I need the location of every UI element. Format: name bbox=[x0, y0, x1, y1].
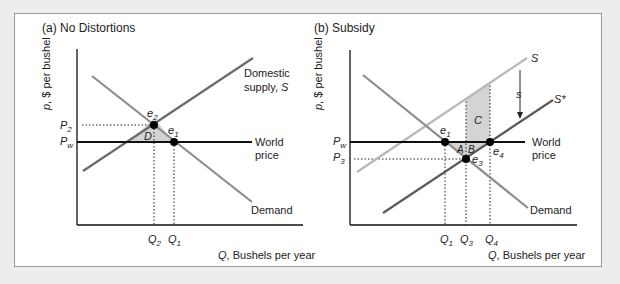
label-q3: Q3 bbox=[460, 233, 474, 248]
panel-a-title: (a) No Distortions bbox=[42, 21, 135, 35]
label-p3: P3 bbox=[333, 151, 345, 166]
label-q1-a: Q1 bbox=[168, 233, 181, 248]
label-supply-s-b: S bbox=[531, 52, 539, 64]
label-p2: P2 bbox=[60, 119, 72, 134]
label-pw-b: Pw bbox=[333, 135, 347, 150]
label-area-d: D bbox=[144, 130, 152, 142]
point-e2 bbox=[150, 121, 158, 129]
label-price-b: price bbox=[532, 149, 556, 161]
label-q2: Q2 bbox=[148, 233, 162, 248]
point-e1-b bbox=[441, 138, 449, 146]
label-e4: e4 bbox=[493, 145, 504, 160]
label-q4: Q4 bbox=[485, 233, 499, 248]
supply-curve-a bbox=[83, 58, 253, 171]
panel-b-title: (b) Subsidy bbox=[314, 21, 375, 35]
panel-a: (a) No Distortions p, $ per bushel e2 e1… bbox=[40, 21, 316, 261]
trade-subsidy-diagram: (a) No Distortions p, $ per bushel e2 e1… bbox=[0, 0, 620, 284]
label-subsidy: s bbox=[516, 88, 522, 100]
point-e1-a bbox=[170, 138, 178, 146]
label-area-b: B bbox=[468, 144, 475, 155]
label-world-a: World bbox=[255, 136, 284, 148]
label-e3: e3 bbox=[472, 153, 483, 168]
label-supply-star: S* bbox=[554, 93, 566, 105]
label-area-c: C bbox=[474, 114, 482, 126]
panel-a-y-axis-label: p, $ per bushel bbox=[40, 37, 52, 111]
panel-a-x-axis-label: Q, Bushels per year bbox=[218, 249, 316, 261]
point-e3 bbox=[462, 155, 470, 163]
panel-b: (b) Subsidy p, $ per bushel s e1 e3 e4 bbox=[312, 21, 586, 261]
label-domestic: Domestic bbox=[244, 67, 290, 79]
label-demand-b: Demand bbox=[530, 204, 572, 216]
label-supply-s: supply, S bbox=[244, 81, 289, 93]
label-world-b: World bbox=[532, 136, 561, 148]
label-q1-b: Q1 bbox=[440, 233, 453, 248]
label-price-a: price bbox=[255, 149, 279, 161]
subsidy-arrow-icon bbox=[517, 112, 523, 119]
panel-b-y-axis-label: p, $ per bushel bbox=[312, 37, 324, 111]
label-area-a: A bbox=[456, 144, 464, 155]
label-demand-a: Demand bbox=[251, 204, 293, 216]
label-e1-b: e1 bbox=[440, 124, 451, 139]
panel-b-x-axis-label: Q, Bushels per year bbox=[488, 249, 586, 261]
label-pw-a: Pw bbox=[60, 135, 74, 150]
